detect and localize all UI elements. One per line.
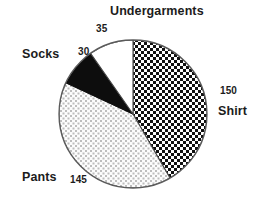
slice-label-pants: Pants xyxy=(22,170,57,184)
slice-value-socks: 30 xyxy=(78,46,89,57)
pie-chart: Undergarments 35 Shirt 150 Socks 30 Pant… xyxy=(0,0,269,207)
slice-value-shirt: 150 xyxy=(220,85,237,96)
slice-label-socks: Socks xyxy=(22,47,59,61)
slice-label-undergarments: Undergarments xyxy=(110,4,204,18)
slice-value-undergarments: 35 xyxy=(96,23,107,34)
slice-value-pants: 145 xyxy=(70,174,87,185)
slice-label-shirt: Shirt xyxy=(218,104,247,118)
